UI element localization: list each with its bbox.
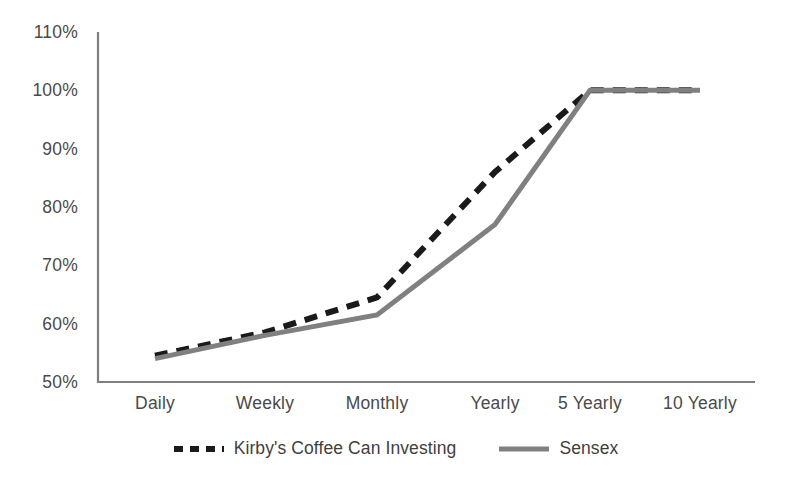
chart-series-layer [155, 90, 700, 358]
y-axis-tick-label: 50% [8, 372, 78, 393]
y-axis-tick-label: 110% [8, 22, 78, 43]
legend-label: Kirby's Coffee Can Investing [234, 438, 457, 459]
x-axis-tick-label: Daily [135, 393, 175, 414]
dashed-line-swatch-icon [173, 446, 225, 452]
legend-label: Sensex [559, 438, 618, 459]
x-axis-tick-label: 10 Yearly [663, 393, 737, 414]
chart-axes [98, 32, 755, 382]
y-axis-tick-label: 100% [8, 80, 78, 101]
x-axis-tick-label: 5 Yearly [558, 393, 622, 414]
series-line-sensex [155, 90, 700, 358]
line-chart: 50%60%70%80%90%100%110% DailyWeeklyMonth… [0, 0, 791, 487]
y-axis-tick-label: 90% [8, 138, 78, 159]
chart-legend: Kirby's Coffee Can Investing Sensex [0, 438, 791, 459]
solid-line-swatch-icon [498, 446, 550, 452]
series-line-kirby-s-coffee-can-investing [155, 90, 700, 355]
x-axis-tick-label: Weekly [236, 393, 294, 414]
x-axis-tick-label: Monthly [346, 393, 409, 414]
y-axis-tick-label: 80% [8, 197, 78, 218]
legend-item-sensex[interactable]: Sensex [498, 438, 618, 459]
y-axis-tick-label: 60% [8, 313, 78, 334]
x-axis-tick-label: Yearly [470, 393, 519, 414]
legend-item-kirbys-coffee-can-investing[interactable]: Kirby's Coffee Can Investing [173, 438, 457, 459]
y-axis-tick-label: 70% [8, 255, 78, 276]
